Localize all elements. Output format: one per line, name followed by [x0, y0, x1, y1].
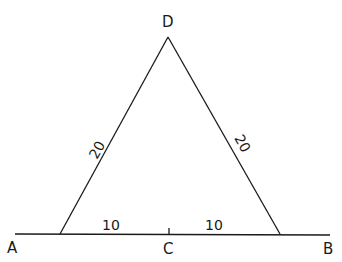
length-ac: 10 [102, 217, 120, 233]
label-b: B [323, 240, 333, 258]
label-a: A [7, 239, 18, 257]
length-cb: 10 [205, 217, 223, 233]
isosceles-triangle-diagram: D A C B 10 10 20 20 [0, 0, 342, 262]
side-left [60, 37, 168, 234]
label-c: C [163, 240, 173, 258]
side-right [168, 37, 280, 234]
length-db-side: 20 [231, 132, 254, 155]
diagram-svg: D A C B 10 10 20 20 [0, 0, 342, 262]
label-d: D [162, 13, 174, 31]
line-ab [15, 234, 330, 235]
length-ad-side: 20 [86, 138, 109, 161]
